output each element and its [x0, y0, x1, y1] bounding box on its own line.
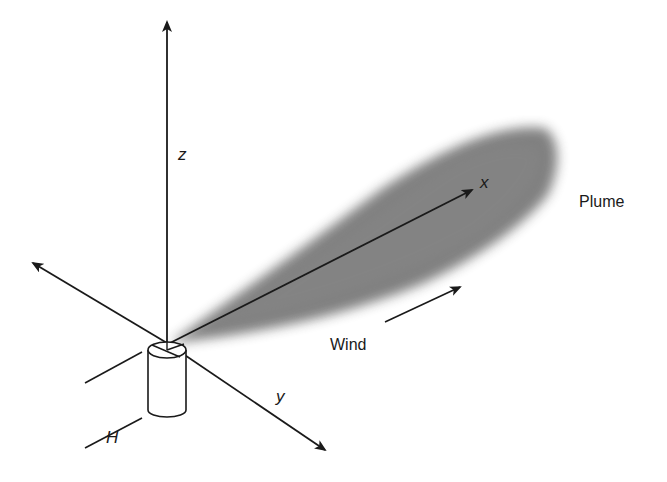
stack-height-label: H	[106, 428, 119, 447]
height-dim-top	[85, 352, 142, 383]
plume-diagram: z x y H Plume Wind	[0, 0, 667, 482]
y-axis	[167, 343, 325, 450]
z-axis-label: z	[177, 145, 187, 164]
y-axis-label: y	[275, 387, 286, 406]
plume-cloud	[170, 127, 557, 343]
stack	[148, 342, 186, 417]
negative-y-axis	[33, 263, 167, 343]
wind-label: Wind	[330, 336, 366, 353]
x-axis-label: x	[479, 173, 489, 192]
plume-label: Plume	[579, 193, 624, 210]
